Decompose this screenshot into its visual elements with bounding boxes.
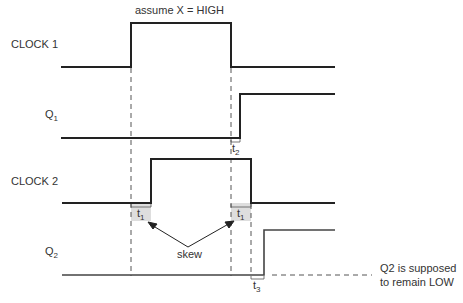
t3-label: t3 [253,279,261,291]
t1-right-label: t1 [237,207,245,219]
t2-sub: 2 [235,148,239,157]
signal-label-q2: Q2 [45,245,58,257]
skew-arrow-right [188,222,232,247]
q2-label-sub: 2 [54,251,58,260]
q2-label-main: Q [45,245,54,257]
t3-sub: 3 [256,285,260,294]
arrowhead-right-icon [225,221,234,228]
signal-label-clock1: CLOCK 1 [11,38,58,50]
t2-label: t2 [232,142,240,154]
t1-left-label: t1 [137,207,145,219]
t1-left-sub: 1 [140,213,144,222]
note-line-2: to remain LOW [380,276,454,288]
signal-label-clock2: CLOCK 2 [11,175,58,187]
signal-label-q1: Q1 [45,108,58,120]
skew-arrow-left [150,224,188,247]
t1-right-sub: 1 [240,213,244,222]
q1-waveform [61,94,335,138]
skew-label: skew [177,248,202,260]
clock2-waveform [62,159,335,203]
q1-label-main: Q [45,108,54,120]
q1-label-sub: 1 [54,114,58,123]
note-line-1: Q2 is supposed [380,262,456,274]
clock1-waveform [61,23,335,67]
diagram-title: assume X = HIGH [135,4,224,16]
